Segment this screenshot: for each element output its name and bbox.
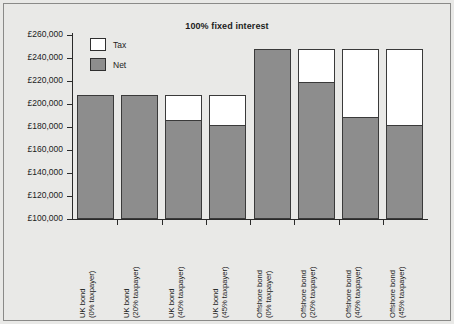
y-tick-label: £200,000: [0, 98, 63, 108]
x-tick-mark: [250, 220, 251, 225]
bar-group: [342, 30, 379, 220]
bar-segment-net: [165, 120, 202, 219]
x-tick-mark: [117, 220, 118, 225]
x-tick-label-line2: (45% taxpayer): [220, 226, 229, 318]
chart-container: 100% fixed interest £100,000£120,000£140…: [0, 0, 454, 324]
x-tick-label: Offshore bond(40% taxpayer): [353, 226, 367, 318]
bar-segment-tax: [298, 49, 335, 83]
y-tick-label: £140,000: [0, 167, 63, 177]
legend-label-net: Net: [113, 60, 126, 70]
bar-segment-net: [386, 125, 423, 219]
y-tick-label: £240,000: [0, 52, 63, 62]
x-tick-label: UK bond(20% taxpayer): [131, 226, 145, 318]
legend-swatch-tax-icon: [90, 38, 106, 51]
legend-item-net: Net: [90, 56, 160, 73]
bar-segment-tax: [165, 95, 202, 121]
x-axis-labels: UK bond(0% taxpayer)UK bond(20% taxpayer…: [73, 226, 427, 322]
x-tick-label: UK bond(0% taxpayer): [87, 226, 101, 318]
x-tick-mark: [294, 220, 295, 225]
x-tick-label: Offshore bond(45% taxpayer): [397, 226, 411, 318]
y-tick-label: £120,000: [0, 190, 63, 200]
bar-group: [298, 30, 335, 220]
x-tick-mark: [383, 220, 384, 225]
bar-segment-tax: [386, 49, 423, 126]
legend-item-tax: Tax: [90, 36, 160, 53]
x-tick-label: UK bond(45% taxpayer): [220, 226, 234, 318]
bar-segment-net: [298, 82, 335, 219]
x-tick-mark: [339, 220, 340, 225]
bar-segment-net: [121, 95, 158, 219]
bar-segment-net: [254, 49, 291, 219]
bar-segment-net: [77, 95, 114, 219]
x-tick-mark: [162, 220, 163, 225]
x-tick-label: Offshore bond(0% taxpayer): [264, 226, 278, 318]
x-tick-mark: [206, 220, 207, 225]
x-tick-label-line2: (20% taxpayer): [308, 226, 317, 318]
x-tick-label-line1: Offshore bond: [388, 226, 397, 318]
x-tick-label-line2: (0% taxpayer): [87, 226, 96, 318]
x-tick-label-line2: (40% taxpayer): [353, 226, 362, 318]
bar-group: [386, 30, 423, 220]
y-tick-label: £260,000: [0, 29, 63, 39]
bar-segment-tax: [209, 95, 246, 126]
bar-segment-net: [209, 125, 246, 219]
bar-segment-net: [342, 117, 379, 219]
x-tick-label-line2: (20% taxpayer): [131, 226, 140, 318]
x-tick-label-line1: UK bond: [211, 226, 220, 318]
y-axis-labels: £100,000£120,000£140,000£160,000£180,000…: [0, 0, 65, 324]
x-tick-label-line2: (0% taxpayer): [264, 226, 273, 318]
x-tick-label-line1: Offshore bond: [344, 226, 353, 318]
x-tick-label-line2: (40% taxpayer): [176, 226, 185, 318]
y-tick-label: £180,000: [0, 121, 63, 131]
y-tick-label: £160,000: [0, 144, 63, 154]
y-tick-label: £220,000: [0, 75, 63, 85]
x-tick-label: UK bond(40% taxpayer): [176, 226, 190, 318]
x-tick-label: Offshore bond(20% taxpayer): [308, 226, 322, 318]
x-tick-label-line1: Offshore bond: [255, 226, 264, 318]
x-tick-label-line1: UK bond: [78, 226, 87, 318]
legend-swatch-net-icon: [90, 58, 106, 71]
x-tick-label-line1: UK bond: [167, 226, 176, 318]
x-tick-label-line2: (45% taxpayer): [397, 226, 406, 318]
y-tick-label: £100,000: [0, 213, 63, 223]
chart-legend: Tax Net: [90, 36, 160, 76]
bar-group: [165, 30, 202, 220]
bar-group: [254, 30, 291, 220]
bar-group: [209, 30, 246, 220]
bar-segment-tax: [342, 49, 379, 118]
legend-label-tax: Tax: [113, 40, 126, 50]
